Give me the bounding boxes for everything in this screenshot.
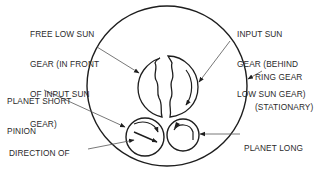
input-sun-rotation-arrow [186,70,192,105]
free-low-sun-gear [138,58,162,117]
ring-gear [87,6,247,166]
cage-direction-arrow [134,132,157,142]
label-ring-gear: RING GEAR (STATIONARY) [255,52,313,132]
input-sun-gear [168,56,198,117]
label-direction-of-cage: DIRECTION OF PLANET–PINION CAGE AND OUTP… [9,128,76,175]
leader-input-sun [199,41,230,82]
planet-long-pinion [167,119,199,151]
short-pinion-rotation-arrow [134,122,158,132]
leader-free-low-sun [97,47,139,73]
planetary-gear-diagram: FREE LOW SUN GEAR (IN FRONT OF INPUT SUN… [0,0,330,175]
long-pinion-rotation-arrow [174,125,193,140]
label-planet-long-pinion: PLANET LONG PINION [244,123,303,175]
